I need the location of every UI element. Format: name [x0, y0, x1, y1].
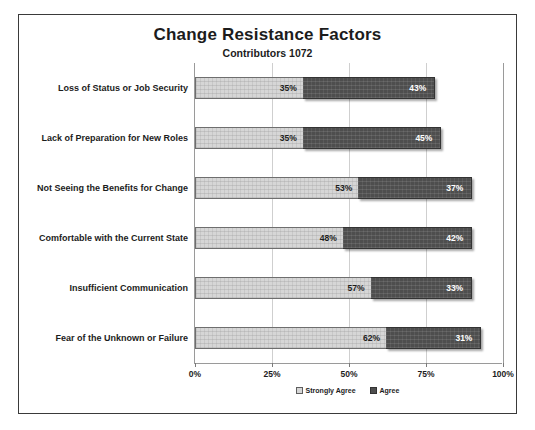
- y-axis-category-label: Lack of Preparation for New Roles: [41, 133, 188, 143]
- bar-value-label: 53%: [335, 184, 358, 193]
- bar-row[interactable]: Insufficient Communication57%33%: [195, 277, 472, 299]
- x-axis-tick-label: 0%: [189, 369, 201, 379]
- gridline: [349, 63, 350, 363]
- x-axis-tick: [426, 363, 427, 367]
- bar-value-label: 62%: [363, 334, 386, 343]
- bar-row[interactable]: Lack of Preparation for New Roles35%45%: [195, 127, 441, 149]
- x-axis-tick: [272, 363, 273, 367]
- bar-value-label: 43%: [409, 84, 434, 93]
- chart-frame: Change Resistance Factors Contributors 1…: [18, 14, 517, 414]
- chart-legend: Strongly AgreeAgree: [194, 387, 501, 394]
- bar-row[interactable]: Fear of the Unknown or Failure62%31%: [195, 327, 481, 349]
- bar-segment-agree[interactable]: 33%: [371, 277, 473, 299]
- gridline: [426, 63, 427, 363]
- x-axis-tick-label: 75%: [417, 369, 434, 379]
- bar-value-label: 48%: [320, 234, 343, 243]
- legend-label: Strongly Agree: [306, 387, 356, 394]
- gridline: [272, 63, 273, 363]
- legend-swatch-icon: [370, 387, 377, 394]
- bar-segment-strongly-agree[interactable]: 57%: [195, 277, 371, 299]
- bar-row[interactable]: Comfortable with the Current State48%42%: [195, 227, 472, 249]
- gridline: [503, 63, 504, 363]
- bar-value-label: 42%: [446, 234, 471, 243]
- bar-value-label: 45%: [415, 134, 440, 143]
- bar-value-label: 35%: [280, 134, 303, 143]
- x-axis-tick-label: 25%: [263, 369, 280, 379]
- legend-swatch-icon: [296, 387, 303, 394]
- title-block: Change Resistance Factors Contributors 1…: [19, 25, 516, 60]
- y-axis-category-label: Not Seeing the Benefits for Change: [37, 183, 188, 193]
- bar-value-label: 57%: [348, 284, 371, 293]
- legend-entry[interactable]: Agree: [370, 387, 400, 394]
- legend-label: Agree: [380, 387, 400, 394]
- bar-segment-strongly-agree[interactable]: 53%: [195, 177, 358, 199]
- bar-value-label: 37%: [446, 184, 471, 193]
- bar-segment-strongly-agree[interactable]: 35%: [195, 127, 303, 149]
- bar-segment-agree[interactable]: 45%: [303, 127, 442, 149]
- bar-segment-strongly-agree[interactable]: 48%: [195, 227, 343, 249]
- bar-segment-strongly-agree[interactable]: 62%: [195, 327, 386, 349]
- x-axis-tick: [503, 363, 504, 367]
- y-axis-category-label: Comfortable with the Current State: [39, 233, 188, 243]
- y-axis-category-label: Insufficient Communication: [69, 283, 188, 293]
- bar-segment-agree[interactable]: 37%: [358, 177, 472, 199]
- chart-subtitle: Contributors 1072: [19, 46, 516, 60]
- bar-value-label: 35%: [280, 84, 303, 93]
- bar-row[interactable]: Not Seeing the Benefits for Change53%37%: [195, 177, 472, 199]
- bar-segment-agree[interactable]: 31%: [386, 327, 481, 349]
- y-axis-category-label: Loss of Status or Job Security: [58, 83, 188, 93]
- y-axis-category-label: Fear of the Unknown or Failure: [55, 333, 188, 343]
- bar-value-label: 33%: [446, 284, 471, 293]
- bar-segment-agree[interactable]: 42%: [343, 227, 472, 249]
- bar-segment-strongly-agree[interactable]: 35%: [195, 77, 303, 99]
- plot-area: 0%25%50%75%100%Loss of Status or Job Sec…: [194, 63, 502, 364]
- x-axis-tick: [349, 363, 350, 367]
- chart-title: Change Resistance Factors: [19, 25, 516, 45]
- legend-entry[interactable]: Strongly Agree: [296, 387, 356, 394]
- bar-row[interactable]: Loss of Status or Job Security35%43%: [195, 77, 435, 99]
- bar-value-label: 31%: [455, 334, 480, 343]
- x-axis-tick: [195, 363, 196, 367]
- x-axis-tick-label: 100%: [492, 369, 514, 379]
- x-axis-tick-label: 50%: [340, 369, 357, 379]
- bar-segment-agree[interactable]: 43%: [303, 77, 435, 99]
